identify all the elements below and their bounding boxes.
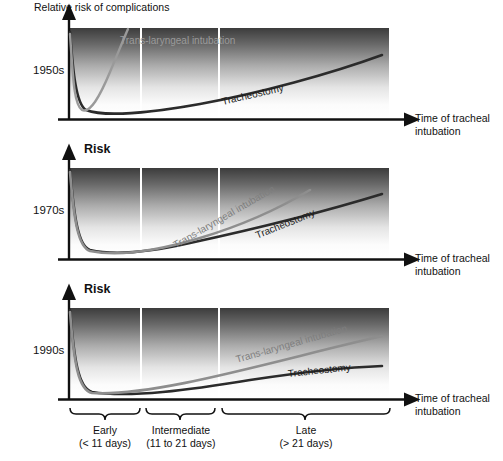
- x-axis-title-1970s: Time of tracheal intubation: [415, 252, 503, 277]
- band-caption-intermediate: Intermediate (11 to 21 days): [143, 424, 219, 449]
- bracket-intermediate: [146, 408, 215, 420]
- panel-1990s: Risk 1990s Trans-laryngeal intubation: [0, 280, 503, 420]
- figure-root: Relative risk of complications 1950s Tra…: [0, 0, 503, 461]
- x-axis-title-line2: intubation: [415, 265, 461, 277]
- x-axis-title-line1: Time of tracheal: [415, 252, 490, 264]
- x-axis-title-line2: intubation: [415, 125, 461, 137]
- panel-1950s: 1950s Trans-laryngeal intubation Tracheo…: [0, 0, 503, 140]
- x-axis-title-1990s: Time of tracheal intubation: [415, 392, 503, 417]
- bracket-early: [70, 408, 140, 420]
- curve-label-trans-laryngeal-1950s: Trans-laryngeal intubation: [120, 35, 235, 46]
- band-caption-early: Early (< 11 days): [70, 424, 140, 449]
- x-axis-title-line1: Time of tracheal: [415, 112, 490, 124]
- band-range-early: (< 11 days): [79, 437, 131, 449]
- band-caption-late: Late (> 21 days): [222, 424, 390, 449]
- band-label-intermediate: Intermediate: [152, 424, 210, 436]
- band-label-late: Late: [296, 424, 316, 436]
- curve-tracheostomy-1990s: [70, 310, 382, 394]
- band-range-late: (> 21 days): [280, 437, 333, 449]
- band-label-early: Early: [93, 424, 117, 436]
- x-axis-title-line2: intubation: [415, 405, 461, 417]
- panel-1970s: Risk 1970s Trans-laryngeal intubation Tr…: [0, 140, 503, 280]
- x-axis-title-1950s: Time of tracheal intubation: [415, 112, 503, 137]
- x-axis-title-line1: Time of tracheal: [415, 392, 490, 404]
- bracket-late: [222, 408, 390, 420]
- band-range-intermediate: (11 to 21 days): [146, 437, 215, 449]
